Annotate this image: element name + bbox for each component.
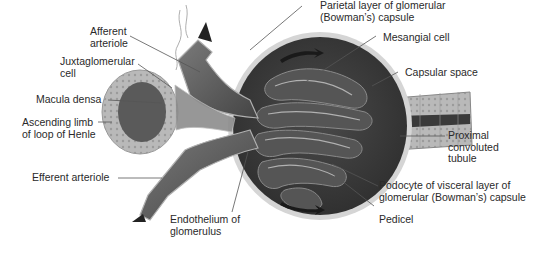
label-capsular-space: Capsular space bbox=[405, 67, 478, 79]
loop-of-henle-shape bbox=[102, 70, 178, 154]
label-pedicel: Pedicel bbox=[379, 214, 413, 226]
renal-corpuscle-diagram: Afferent arteriole Juxtaglomerular cell … bbox=[0, 0, 548, 253]
label-podocyte: Podocyte of visceral layer of glomerular… bbox=[379, 180, 526, 203]
label-macula-densa: Macula densa bbox=[36, 94, 101, 106]
inflow-arrow-icon bbox=[198, 22, 212, 42]
label-proximal-tubule: Proximal convoluted tubule bbox=[448, 130, 499, 165]
label-mesangial-cell: Mesangial cell bbox=[383, 32, 450, 44]
label-endothelium: Endothelium of glomerulus bbox=[170, 214, 240, 237]
label-ascending-limb: Ascending limb of loop of Henle bbox=[22, 117, 96, 140]
label-juxtaglomerular-cell: Juxtaglomerular cell bbox=[60, 56, 135, 79]
label-efferent-arteriole: Efferent arteriole bbox=[32, 172, 109, 184]
label-parietal-layer: Parietal layer of glomerular (Bowman’s) … bbox=[320, 0, 445, 23]
label-afferent-arteriole: Afferent arteriole bbox=[90, 26, 128, 49]
